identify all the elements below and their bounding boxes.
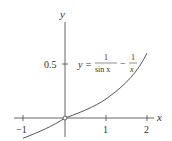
x-tick-label-2: 2 [144,124,149,135]
eq-numerator-1: 1 [104,53,108,62]
y-axis-label: y [59,8,65,20]
eq-denominator-1: sin x [95,65,110,74]
x-tick-label-neg1: −1 [16,124,27,135]
y-tick-label-half: 0.5 [44,59,57,70]
curve-left-segment [23,118,65,138]
x-axis-label: x [156,111,162,123]
open-circle-origin [63,116,67,120]
function-label: y = 1 sin x − 1 x [77,53,137,74]
eq-numerator-2: 1 [131,53,135,62]
eq-denominator-2: x [129,65,134,74]
chart-canvas: y x −1 1 2 0.5 y = 1 sin x − 1 x [0,0,172,141]
x-tick-label-1: 1 [103,124,108,135]
eq-lhs: y = [77,59,92,70]
eq-minus: − [120,58,126,69]
